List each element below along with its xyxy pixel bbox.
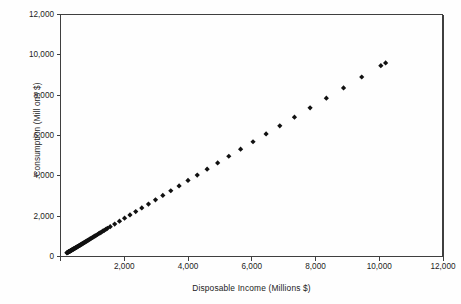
data-point: [277, 123, 282, 128]
data-point: [112, 221, 117, 226]
axes-frame: [61, 15, 444, 257]
data-point: [307, 105, 312, 110]
data-point: [146, 201, 151, 206]
data-point: [133, 209, 138, 214]
scatter-plot-area: [0, 0, 461, 304]
data-point: [250, 139, 255, 144]
data-point: [176, 183, 181, 188]
data-point-markers: [64, 60, 388, 255]
data-point: [341, 85, 346, 90]
data-point: [185, 178, 190, 183]
data-point: [195, 172, 200, 177]
data-point: [127, 212, 132, 217]
data-point: [378, 63, 383, 68]
data-point: [160, 193, 165, 198]
data-point: [122, 216, 127, 221]
data-point: [359, 74, 364, 79]
data-point: [117, 219, 122, 224]
data-point: [205, 167, 210, 172]
data-point: [238, 147, 243, 152]
data-point: [383, 60, 388, 65]
data-point: [153, 197, 158, 202]
data-point: [226, 154, 231, 159]
data-point: [139, 205, 144, 210]
data-point: [324, 96, 329, 101]
data-point: [263, 131, 268, 136]
data-point: [292, 115, 297, 120]
data-point: [215, 160, 220, 165]
data-point: [168, 188, 173, 193]
chart-figure: Consumption (Mill ons $) Disposable Inco…: [0, 0, 461, 304]
